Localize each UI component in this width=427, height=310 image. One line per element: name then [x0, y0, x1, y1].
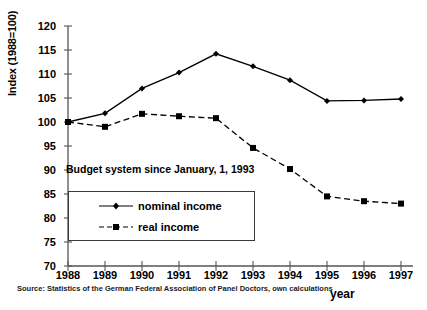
- data-point-marker: [324, 98, 330, 104]
- legend-item-real-income: real income: [99, 220, 199, 234]
- data-point-marker: [65, 119, 71, 125]
- data-point-marker: [287, 166, 293, 172]
- data-point-marker: [398, 201, 404, 207]
- data-point-marker: [250, 145, 256, 151]
- data-point-marker: [213, 115, 219, 121]
- legend-marker-diamond-icon: [99, 201, 133, 211]
- legend-marker-square-icon: [99, 222, 133, 232]
- data-point-marker: [398, 96, 404, 102]
- legend-label-real-income: real income: [138, 221, 199, 233]
- source-note: Source: Statistics of the German Federal…: [17, 284, 333, 293]
- data-point-marker: [250, 63, 256, 69]
- data-point-marker: [176, 113, 182, 119]
- data-point-marker: [213, 51, 219, 57]
- data-point-marker: [361, 97, 367, 103]
- plot-area: [0, 0, 427, 310]
- chart-annotation: Budget system since January, 1, 1993: [66, 163, 254, 175]
- legend: nominal income real income: [68, 191, 255, 241]
- data-point-marker: [361, 198, 367, 204]
- data-point-marker: [139, 111, 145, 117]
- x-axis-title: year: [330, 287, 355, 301]
- chart-container: Index (1988=100) 12011511010510095908580…: [0, 0, 427, 310]
- legend-item-nominal-income: nominal income: [99, 199, 222, 213]
- series-line-nominal-income: [68, 54, 401, 122]
- data-point-marker: [287, 77, 293, 83]
- data-point-marker: [324, 193, 330, 199]
- data-point-marker: [176, 70, 182, 76]
- legend-label-nominal-income: nominal income: [138, 200, 222, 212]
- data-point-marker: [102, 124, 108, 130]
